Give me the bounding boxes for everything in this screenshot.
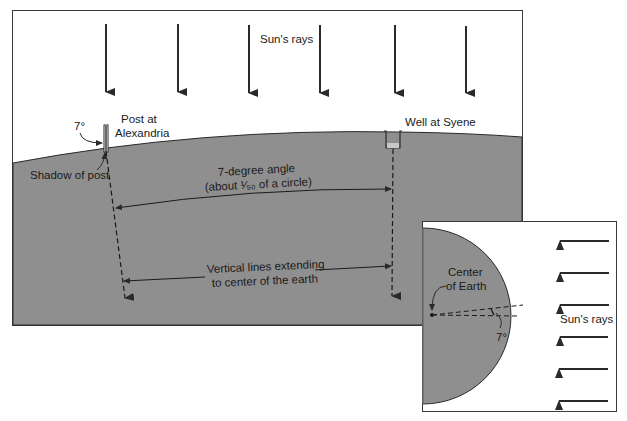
- inset-angle-label: 7°: [496, 331, 507, 343]
- shadow-of-post-label: Shadow of post: [30, 169, 110, 181]
- center-label-line1: Center: [448, 266, 483, 278]
- post-label-line2: Alexandria: [115, 127, 170, 139]
- post-label-line1: Post at: [121, 113, 158, 125]
- eratosthenes-diagram: Sun's rays Post at Alexandria 7° Shadow …: [0, 0, 627, 421]
- center-label-line2: of Earth: [446, 280, 486, 292]
- inset-panel: Sun's rays Center of Earth 7°: [423, 222, 617, 412]
- sun-rays-label: Sun's rays: [260, 33, 314, 45]
- well-label: Well at Syene: [405, 116, 476, 128]
- post-at-alexandria: [104, 125, 108, 152]
- angle-label-7deg: 7°: [74, 120, 85, 132]
- inset-sun-rays-label: Sun's rays: [560, 313, 614, 325]
